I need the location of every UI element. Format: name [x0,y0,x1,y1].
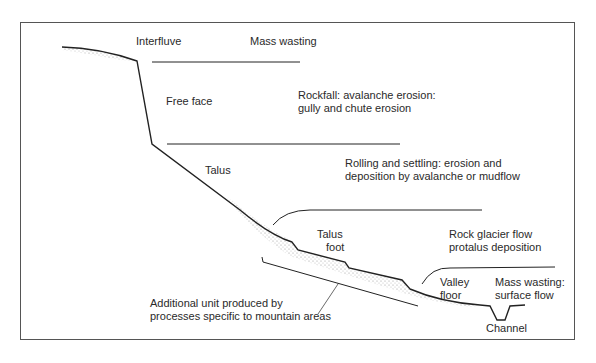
label-rock-glacier-2: protalus deposition [449,241,541,254]
label-valley-floor-1: Valley [440,276,469,289]
label-channel: Channel [486,322,527,335]
interfluve-deposit [62,47,137,61]
label-valley-floor-2: floor [440,289,461,302]
label-rock-glacier-1: Rock glacier flow [449,228,532,241]
label-surface-flow-2: surface flow [495,289,554,302]
label-free-face: Free face [166,95,212,108]
label-mass-wasting: Mass wasting [250,35,317,48]
bracket-talus-foot [273,210,482,225]
label-rockfall-1: Rockfall: avalanche erosion: [298,89,436,102]
label-rolling-2: deposition by avalanche or mudflow [345,170,520,183]
label-surface-flow-1: Mass wasting: [495,276,565,289]
label-interfluve: Interfluve [136,35,181,48]
label-talus-foot-1: Talus [317,228,343,241]
label-rolling-1: Rolling and settling: erosion and [345,157,502,170]
label-talus-foot-2: foot [326,241,344,254]
annotation-line-2: processes specific to mountain areas [150,310,331,323]
label-talus: Talus [205,164,231,177]
label-rockfall-2: gully and chute erosion [298,102,411,115]
annotation-line-1: Additional unit produced by [150,297,283,310]
